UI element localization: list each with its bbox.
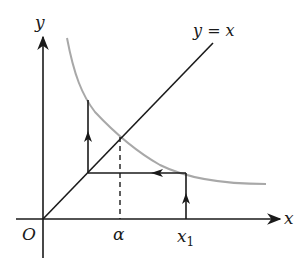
x-axis-label: x [284, 208, 294, 228]
identity-line [43, 43, 213, 219]
cobweb-diagram: y x O y = x α x1 [0, 0, 302, 260]
origin-label: O [22, 224, 36, 244]
alpha-label: α [113, 224, 125, 244]
x1-label: x1 [177, 226, 194, 249]
y-axis-label: y [34, 12, 45, 32]
identity-line-label: y = x [192, 21, 235, 40]
